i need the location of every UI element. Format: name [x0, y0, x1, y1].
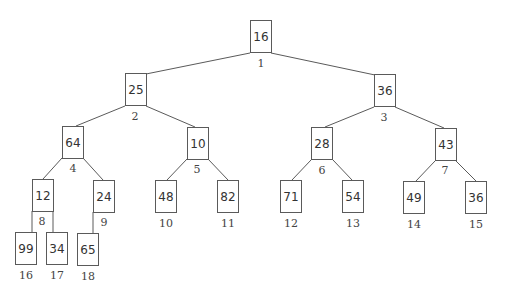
tree-node-7: 43: [435, 128, 457, 161]
node-value: 36: [377, 84, 392, 98]
tree-edge-4-9: [83, 158, 103, 180]
tree-edge-1-2: [146, 53, 250, 74]
tree-edge-7-15: [456, 161, 476, 181]
tree-node-18: 65: [77, 233, 99, 266]
node-value: 10: [190, 137, 205, 151]
node-value: 24: [96, 190, 111, 204]
tree-edge-5-11: [208, 159, 228, 180]
tree-node-3: 36: [374, 74, 396, 107]
tree-node-12: 71: [280, 180, 302, 213]
tree-edge-6-12: [292, 160, 311, 180]
node-index-label: 6: [319, 164, 326, 177]
tree-node-15: 36: [465, 181, 487, 214]
node-index-label: 5: [194, 163, 201, 176]
node-index-label: 15: [469, 218, 483, 231]
tree-node-14: 49: [403, 181, 425, 214]
node-value: 34: [49, 242, 64, 256]
tree-edge-5-10: [167, 159, 187, 180]
tree-node-10: 48: [155, 180, 177, 213]
tree-edge-3-7: [395, 107, 444, 128]
tree-node-11: 82: [217, 180, 239, 213]
tree-node-4: 64: [62, 126, 84, 159]
node-index-label: 4: [70, 162, 77, 175]
node-value: 71: [283, 190, 298, 204]
node-value: 12: [35, 189, 50, 203]
node-value: 64: [65, 136, 80, 150]
node-index-label: 11: [221, 217, 235, 230]
node-index-label: 1: [258, 57, 265, 70]
tree-edge-2-5: [146, 106, 195, 127]
node-value: 54: [345, 190, 360, 204]
tree-node-6: 28: [311, 127, 333, 160]
tree-node-8: 12: [32, 179, 54, 212]
node-value: 99: [18, 242, 33, 256]
tree-node-1: 16: [250, 20, 272, 53]
tree-edge-2-4: [76, 106, 125, 126]
tree-edge-1-3: [271, 53, 375, 75]
tree-edge-7-14: [416, 161, 435, 181]
tree-edge-3-6: [325, 107, 374, 127]
node-index-label: 7: [442, 164, 449, 177]
tree-node-17: 34: [46, 232, 68, 265]
tree-node-9: 24: [93, 180, 115, 213]
node-value: 36: [468, 191, 483, 205]
tree-edge-6-13: [333, 160, 352, 180]
node-index-label: 3: [381, 111, 388, 124]
node-index-label: 13: [346, 217, 360, 230]
tree-node-16: 99: [15, 232, 37, 265]
tree-node-5: 10: [187, 127, 209, 160]
tree-node-13: 54: [342, 180, 364, 213]
node-value: 48: [158, 190, 173, 204]
node-value: 49: [406, 191, 421, 205]
node-value: 28: [314, 137, 329, 151]
node-index-label: 18: [81, 270, 95, 283]
node-value: 25: [128, 83, 143, 97]
node-index-label: 17: [50, 269, 64, 282]
node-index-label: 2: [132, 110, 139, 123]
tree-edge-4-8: [43, 158, 62, 179]
node-value: 65: [80, 243, 95, 257]
node-value: 43: [438, 138, 453, 152]
node-index-label: 10: [159, 217, 173, 230]
tree-node-2: 25: [125, 73, 147, 106]
node-index-label: 12: [284, 217, 298, 230]
node-index-label: 14: [407, 218, 421, 231]
node-index-label: 16: [19, 269, 33, 282]
heap-tree-diagram: 1612523636441052864371282494810821171125…: [0, 0, 505, 296]
node-index-label: 9: [101, 216, 108, 229]
node-value: 82: [220, 190, 235, 204]
node-value: 16: [253, 30, 268, 44]
node-index-label: 8: [39, 215, 46, 228]
